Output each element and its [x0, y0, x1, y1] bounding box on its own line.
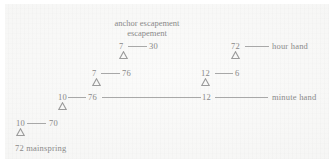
connector-12-6 — [215, 73, 233, 74]
node-pinion-10-lower: 10 — [16, 118, 25, 128]
node-wheel-70: 70 — [49, 118, 58, 128]
scan-margin-left — [0, 0, 5, 164]
connector-7-30 — [128, 46, 147, 47]
label-mainspring: 72 mainspring — [15, 143, 66, 153]
scan-margin-top — [0, 0, 333, 4]
node-wheel-30: 30 — [149, 41, 158, 51]
mesh-triangle-icon-great — [16, 128, 25, 136]
node-wheel-76-second: 76 — [122, 68, 131, 78]
node-pinion-10-centre: 10 — [58, 92, 67, 102]
connector-minute-hand — [215, 97, 268, 98]
connector-10-70 — [27, 123, 46, 124]
node-pinion-7-second: 7 — [92, 68, 96, 78]
node-wheel-6: 6 — [235, 68, 239, 78]
connector-centre-to-minute — [102, 97, 201, 98]
gear-train-figure: anchor escapement 7 30 72 hour hand esca… — [0, 0, 333, 164]
node-pinion-12-minute: 12 — [202, 92, 211, 102]
anchor-escapement-title-line-2: escapement — [112, 28, 182, 39]
mesh-triangle-icon-hour — [231, 51, 240, 59]
mesh-triangle-icon-second — [92, 78, 101, 86]
mesh-triangle-icon-centre — [58, 102, 67, 110]
scan-margin-right — [329, 0, 333, 164]
connector-hour-hand — [245, 46, 269, 47]
node-pinion-72-hour: 72 — [231, 41, 240, 51]
scan-margin-bottom — [0, 159, 333, 164]
connector-7-76 — [101, 73, 120, 74]
mesh-triangle-icon-escapement — [119, 51, 128, 59]
node-pinion-7-top: 7 — [119, 41, 123, 51]
mesh-triangle-icon-right — [201, 78, 210, 86]
node-pinion-12-right: 12 — [201, 68, 210, 78]
connector-10-76 — [68, 97, 86, 98]
node-wheel-76-centre: 76 — [88, 92, 97, 102]
label-hour-hand: hour hand — [272, 41, 308, 51]
label-minute-hand: minute hand — [272, 92, 316, 102]
